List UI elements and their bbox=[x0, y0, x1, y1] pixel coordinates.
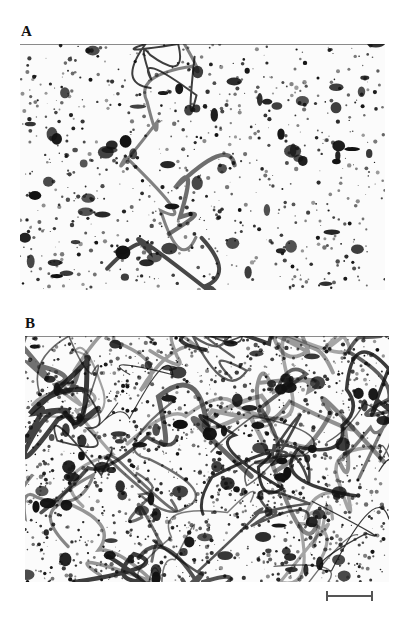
panel-b-micrograph bbox=[25, 336, 389, 582]
panel-a-micrograph bbox=[20, 44, 385, 290]
micrograph-texture bbox=[25, 336, 389, 582]
scale-bar bbox=[326, 595, 373, 597]
micrograph-texture bbox=[20, 44, 385, 290]
panel-b-label: B bbox=[25, 316, 35, 331]
panel-a-label: A bbox=[21, 24, 32, 39]
